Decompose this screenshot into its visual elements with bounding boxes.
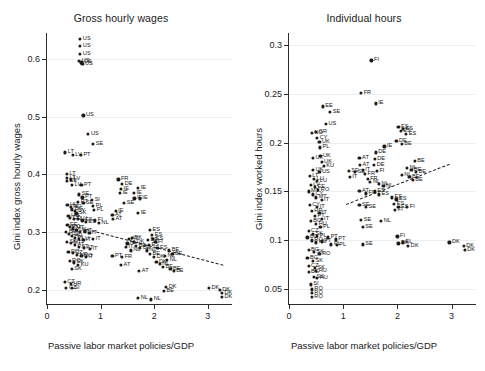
y-tick [284, 94, 289, 95]
scatter-point [348, 175, 351, 178]
scatter-point [380, 219, 383, 222]
gridline-y [47, 59, 232, 60]
scatter-point [363, 172, 366, 175]
scatter-point-label: FR [125, 254, 132, 260]
scatter-point [374, 102, 377, 105]
scatter-point-label: DK [224, 294, 232, 300]
x-axis-title-left: Passive labor market policies/GDP [0, 340, 242, 351]
scatter-point-label: SE [96, 141, 103, 147]
scatter-point [400, 142, 403, 145]
scatter-point-label: BE [415, 177, 422, 183]
y-tick-label: 0.6 [27, 54, 40, 64]
scatter-point [71, 184, 74, 187]
scatter-point-label: RO [322, 251, 330, 257]
scatter-point-label: IE [142, 196, 147, 202]
y-tick-label: 0.5 [27, 112, 40, 122]
scatter-point-label: ES [382, 192, 389, 198]
scatter-point [93, 208, 96, 211]
scatter-point-label: SE [369, 204, 376, 210]
scatter-point [97, 221, 100, 224]
y-tick [284, 45, 289, 46]
scatter-point-label: NL [154, 297, 161, 303]
scatter-point [94, 219, 97, 222]
scatter-point [220, 295, 223, 298]
scatter-point [397, 242, 400, 245]
panel-title-left: Gross hourly wages [0, 12, 242, 24]
scatter-point [310, 288, 313, 291]
scatter-point [330, 243, 333, 246]
scatter-point [161, 265, 164, 268]
x-tick [154, 304, 155, 309]
scatter-point [394, 208, 397, 211]
scatter-point [111, 213, 114, 216]
panel-title-right: Individual hours [243, 12, 485, 24]
scatter-point-label: NL [141, 295, 148, 301]
scatter-point [92, 237, 95, 240]
scatter-point [79, 37, 82, 40]
scatter-point [307, 270, 310, 273]
scatter-point [124, 245, 127, 248]
scatter-point-label: IT [324, 197, 329, 203]
scatter-point [307, 190, 310, 193]
scatter-point-label: NL [102, 220, 109, 226]
scatter-point-label: IT [92, 246, 97, 252]
scatter-point [308, 204, 311, 207]
y-tick [42, 174, 47, 175]
scatter-point [404, 132, 407, 135]
scatter-point [137, 211, 140, 214]
scatter-point [65, 240, 68, 243]
scatter-point [315, 196, 318, 199]
scatter-point [396, 235, 399, 238]
scatter-point [310, 209, 313, 212]
x-tick [101, 304, 102, 309]
scatter-point [92, 143, 95, 146]
plot-area-left: 0.20.30.40.50.60123USUSUSUSUSUSUSUSSELTL… [46, 33, 232, 305]
scatter-point [65, 180, 68, 183]
scatter-point [307, 249, 310, 252]
scatter-point [79, 153, 82, 156]
scatter-point [358, 157, 361, 160]
scatter-point [306, 256, 309, 259]
scatter-point-label: NL [170, 257, 177, 263]
scatter-point [120, 256, 123, 259]
scatter-point-label: DK [467, 247, 475, 253]
scatter-point [80, 184, 83, 187]
scatter-point-label: IT [96, 236, 101, 242]
scatter-point [67, 250, 70, 253]
scatter-point-label: IE [141, 210, 146, 216]
x-tick [343, 304, 344, 309]
scatter-point [370, 59, 373, 62]
x-tick [452, 304, 453, 309]
scatter-point-label: AT [142, 268, 149, 274]
scatter-point [462, 245, 465, 248]
y-tick-label: 0.1 [269, 235, 282, 245]
scatter-point-label: IE [123, 190, 128, 196]
x-tick-label: 1 [341, 311, 346, 321]
scatter-point [318, 146, 321, 149]
scatter-point [138, 270, 141, 273]
scatter-point [358, 163, 361, 166]
scatter-point-label: US [83, 43, 91, 49]
y-tick-label: 0.05 [264, 284, 282, 294]
scatter-point [407, 245, 410, 248]
scatter-point-label: FI [398, 207, 403, 213]
scatter-point [373, 163, 376, 166]
scatter-point [311, 157, 314, 160]
scatter-point-label: BE [176, 268, 183, 274]
scatter-point [321, 105, 324, 108]
scatter-point-label: AT [124, 262, 131, 268]
y-tick [42, 232, 47, 233]
scatter-point [149, 298, 152, 301]
scatter-point [306, 236, 309, 239]
scatter-point [319, 225, 322, 228]
y-tick-label: 0.25 [264, 89, 282, 99]
scatter-point-label: BE [166, 288, 173, 294]
scatter-point-label: HR [73, 281, 81, 287]
x-tick-label: 1 [98, 311, 103, 321]
scatter-point [117, 178, 120, 181]
scatter-point [309, 219, 312, 222]
scatter-point [79, 52, 82, 55]
scatter-point-label: DE [378, 150, 386, 156]
scatter-point-label: FR [364, 90, 371, 96]
scatter-point [397, 125, 400, 128]
